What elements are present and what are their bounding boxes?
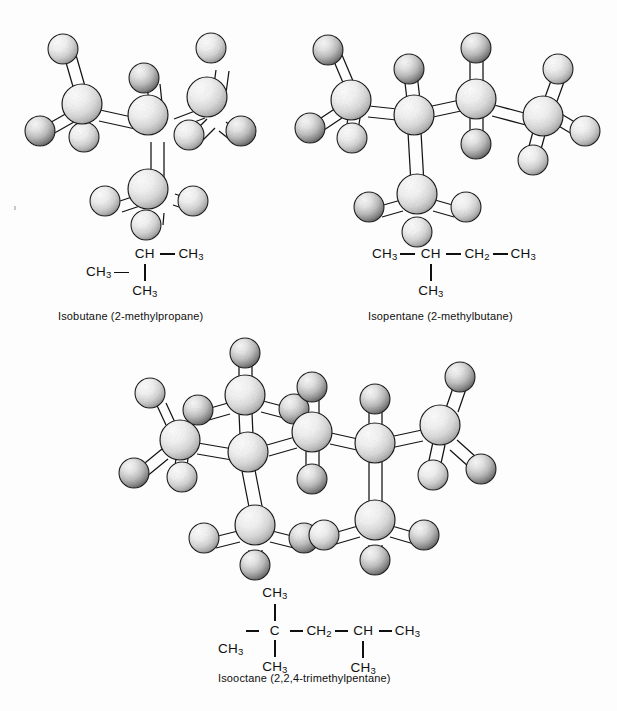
hydrogen-sphere — [451, 192, 481, 222]
atom-ch3-right: CH3 — [511, 247, 536, 262]
bond-line-vertical — [144, 264, 146, 281]
carbon-sphere — [397, 174, 437, 214]
bond-line-vertical — [274, 640, 276, 657]
bond-line — [114, 272, 129, 274]
hydrogen-sphere — [309, 520, 339, 550]
hydrogen-sphere — [360, 545, 390, 575]
hydrogen-sphere — [196, 33, 226, 63]
branch-group-c2: CH3 C CH3 — [262, 586, 287, 675]
hydrogen-sphere — [174, 120, 204, 150]
carbon-sphere — [331, 80, 371, 120]
atom-group — [25, 33, 256, 240]
carbon-sphere — [355, 423, 395, 463]
formula-main-chain: CH3 CH CH3 CH3 — [86, 247, 204, 298]
model-isopentane — [300, 14, 600, 244]
atom-ch3-left: CH3 — [86, 265, 111, 280]
carbon-sphere — [187, 77, 227, 117]
hydrogen-sphere — [129, 63, 159, 93]
bond-line-vertical — [274, 604, 276, 621]
hydrogen-sphere — [69, 122, 99, 152]
bond-line-vertical — [430, 264, 432, 281]
atom-ch-center: CH — [421, 247, 441, 261]
carbon-sphere — [225, 375, 265, 415]
carbon-sphere — [235, 505, 275, 545]
carbon-sphere — [62, 84, 102, 124]
atom-ch2-c3: CH2 — [306, 624, 331, 639]
hydrogen-sphere — [461, 33, 491, 63]
carbon-sphere — [228, 432, 268, 472]
carbon-sphere — [355, 500, 395, 540]
branch-group: CH CH3 — [418, 247, 443, 298]
atom-ch2-mid: CH2 — [464, 247, 489, 262]
atom-group — [119, 338, 496, 580]
hydrogen-sphere — [297, 372, 327, 402]
hydrogen-sphere — [518, 145, 548, 175]
model-isooctane — [100, 345, 520, 585]
bond-line — [290, 630, 303, 632]
hydrogen-sphere — [240, 550, 270, 580]
atom-ch3-left: CH3 — [218, 642, 243, 657]
formula-main-chain: CH3 CH CH3 CH2 CH3 — [372, 247, 536, 298]
hydrogen-sphere — [295, 113, 325, 143]
hydrogen-sphere — [570, 116, 600, 146]
carbon-sphere — [420, 405, 460, 445]
hydrogen-sphere — [337, 123, 367, 153]
hydrogen-sphere — [445, 362, 475, 392]
hydrogen-sphere — [409, 520, 439, 550]
atom-ch3-branch: CH3 — [132, 284, 157, 299]
hydrogen-sphere — [183, 395, 213, 425]
formula-isobutane: CH3 CH CH3 CH3 — [86, 247, 204, 298]
bond-line — [246, 630, 259, 632]
bond-line — [400, 253, 415, 255]
hydrogen-sphere — [461, 129, 491, 159]
hydrogen-sphere — [360, 384, 390, 414]
hydrogen-sphere — [189, 523, 219, 553]
carbon-sphere — [128, 95, 168, 135]
formula-main-chain: CH3 CH3 C CH3 CH2 CH CH3 CH3 — [218, 586, 420, 675]
hydrogen-sphere — [394, 54, 424, 84]
hydrogen-sphere — [402, 217, 432, 247]
formula-isooctane: CH3 CH3 C CH3 CH2 CH CH3 CH3 — [218, 586, 420, 675]
atom-ch3-right: CH3 — [395, 624, 420, 639]
bond-line — [379, 630, 392, 632]
hydrogen-sphere — [230, 338, 260, 368]
carbon-sphere — [394, 95, 434, 135]
hydrogen-sphere — [297, 464, 327, 494]
atom-ch-c4: CH — [353, 624, 373, 638]
carbon-sphere — [128, 169, 168, 209]
hydrogen-sphere — [167, 462, 197, 492]
hydrogen-sphere — [25, 116, 55, 146]
hydrogen-sphere — [543, 54, 573, 84]
hydrogen-sphere — [48, 34, 78, 64]
atom-ch3-branch: CH3 — [418, 284, 443, 299]
hydrogen-sphere — [119, 458, 149, 488]
bond-line — [493, 253, 508, 255]
bond-line — [446, 253, 461, 255]
hydrogen-sphere — [466, 454, 496, 484]
hydrogen-sphere — [90, 186, 120, 216]
carbon-sphere — [523, 96, 563, 136]
branch-group-c4: CH CH3 — [351, 624, 376, 675]
hydrogen-sphere — [418, 460, 448, 490]
branch-group: CH CH3 — [132, 247, 157, 298]
atom-ch-center: CH — [135, 247, 155, 261]
hydrogen-sphere — [131, 210, 161, 240]
carbon-sphere — [292, 412, 332, 452]
bond-line — [160, 253, 175, 255]
caption-isobutane: Isobutane (2-methylpropane) — [58, 310, 203, 322]
model-isobutane — [10, 14, 280, 244]
carbon-sphere — [160, 420, 200, 460]
caption-isooctane: Isooctane (2,2,4-trimethylpentane) — [218, 672, 391, 684]
carbon-sphere — [456, 79, 496, 119]
atom-ch3-left: CH3 — [372, 247, 397, 262]
atom-ch3-branch-top: CH3 — [262, 586, 287, 601]
atom-ch3-right: CH3 — [178, 247, 203, 262]
formula-isopentane: CH3 CH CH3 CH2 CH3 — [372, 247, 536, 298]
hydrogen-sphere — [135, 378, 165, 408]
hydrogen-sphere — [178, 186, 208, 216]
hydrogen-sphere — [226, 116, 256, 146]
bond-line — [335, 630, 348, 632]
bond-line-vertical — [362, 641, 364, 658]
hydrogen-sphere — [313, 35, 343, 65]
hydrogen-sphere — [354, 192, 384, 222]
